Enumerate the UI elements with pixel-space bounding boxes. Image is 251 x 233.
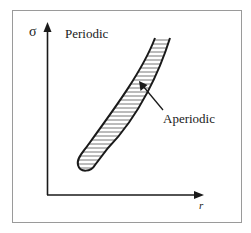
aperiodic-pointer-line	[143, 86, 163, 110]
periodic-region-label: Periodic	[65, 27, 108, 40]
x-axis-arrow-icon	[194, 191, 204, 199]
y-axis-label: σ	[29, 25, 37, 39]
periodic-aperiodic-diagram: σ Periodic Aperiodic r	[0, 0, 251, 233]
aperiodic-band-hatching	[60, 40, 200, 168]
aperiodic-region-label: Aperiodic	[163, 112, 215, 125]
y-axis-arrow-icon	[44, 22, 52, 32]
x-axis-label: r	[199, 200, 203, 211]
